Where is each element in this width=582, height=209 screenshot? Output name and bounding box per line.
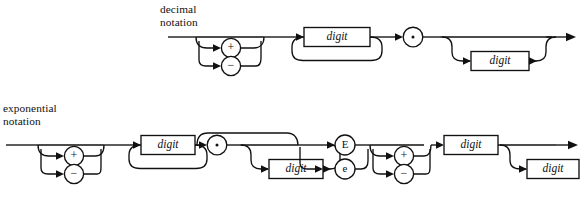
exp-expsign-plus-label: + [401,148,408,162]
decimal-plus-arrow [213,44,221,52]
decimal-frac-digit-arrow-in [463,57,471,65]
exp-frac-loop-left [241,145,268,169]
decimal-frac-digit-arrow-out [529,57,537,65]
exp-point-dot [216,144,219,147]
exp-E-arrow [327,141,335,149]
decimal-point-arrow [395,33,403,41]
exp-dot-arrow [199,141,207,149]
exp-minus-label: − [71,166,78,180]
exp-plus-arrow [56,152,64,160]
decimal-frac-loop-left [442,37,470,61]
railroad-svg: + − digit [0,0,582,209]
exp-expsign-join-minus [414,149,430,174]
exp-expdigit2-label: digit [542,162,564,175]
decimal-minus-label: − [228,58,235,72]
decimal-frac-loop-right [529,37,556,61]
exp-sign-join-minus [84,149,101,174]
exponential-diagram-group: + − digit [6,133,579,184]
exp-expsign-minus-arrow [386,170,394,178]
exp-plus-label: + [71,148,78,162]
decimal-sign-fork-left-down [199,41,213,66]
exp-expsign-plus-arrow [386,152,394,160]
exp-expsign-fork-minus [373,149,386,174]
exp-expdigit1-arrow [436,141,444,149]
exp-E-lower-label: e [343,162,348,174]
exp-expdigit2-branch-in [500,145,526,169]
decimal-diagram-group: + − digit [168,27,576,75]
exp-frac-digit-arrow-in [261,165,269,173]
exp-expsign-minus-label: − [401,166,408,180]
decimal-int-digit-label: digit [326,30,348,43]
decimal-frac-digit-label: digit [489,54,511,67]
exp-expsign-join-plus [414,145,431,156]
exp-minus-arrow [56,170,64,178]
exp-exit-arrow [568,141,578,149]
exp-sign-fork-minus [41,149,56,174]
decimal-minus-arrow [213,62,221,70]
diagram-canvas: decimal notation exponential notation + … [0,0,582,209]
decimal-point-dot [412,36,415,39]
decimal-exit-arrow [566,33,576,41]
exp-mant-digit-label: digit [157,138,179,151]
exp-E-upper-label: E [342,138,349,150]
decimal-sign-join-minus [241,41,261,66]
decimal-plus-label: + [228,40,235,54]
exp-expdigit1-label: digit [460,138,482,151]
exp-expdigit2-arrow-in [519,165,527,173]
exp-frac-digit-arrow-out [323,165,331,173]
exp-marker-join-lower [355,149,368,169]
